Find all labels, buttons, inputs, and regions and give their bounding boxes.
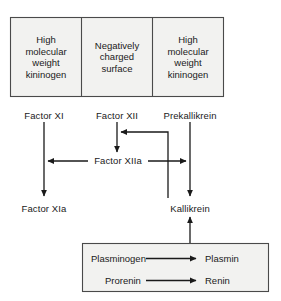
label-factor-xii: Factor XII (96, 110, 138, 121)
cell-hmwk-right-line-3: weight (167, 57, 208, 69)
label-factor-xia: Factor XIa (22, 203, 67, 214)
label-prorenin: Prorenin (105, 275, 141, 286)
label-factor-xi: Factor XI (24, 110, 63, 121)
cell-hmwk-right-line-1: High (167, 34, 208, 46)
cell-hmwk-left: High molecular weight kininogen (11, 18, 81, 96)
label-plasminogen: Plasminogen (91, 253, 146, 264)
label-prekallikrein: Prekallikrein (163, 110, 216, 121)
cell-hmwk-left-line-1: High (25, 34, 66, 46)
cell-negatively-charged-surface: Negatively charged surface (82, 18, 152, 96)
cell-hmwk-right-line-4: kininogen (167, 69, 208, 81)
contact-activation-pathway-diagram: High molecular weight kininogen Negative… (0, 0, 281, 301)
cell-surface-line-2: charged (95, 51, 139, 63)
label-factor-xiia: Factor XIIa (91, 155, 145, 166)
cell-hmwk-left-line-2: molecular (25, 46, 66, 58)
cell-surface-line-1: Negatively (95, 40, 139, 52)
cell-surface-line-3: surface (95, 63, 139, 75)
label-kallikrein: Kallikrein (170, 203, 210, 214)
cell-hmwk-left-line-3: weight (25, 57, 66, 69)
cell-hmwk-right: High molecular weight kininogen (153, 18, 223, 96)
label-renin: Renin (205, 275, 230, 286)
cell-hmwk-left-line-4: kininogen (25, 69, 66, 81)
label-plasmin: Plasmin (205, 253, 239, 264)
cell-hmwk-right-line-2: molecular (167, 46, 208, 58)
